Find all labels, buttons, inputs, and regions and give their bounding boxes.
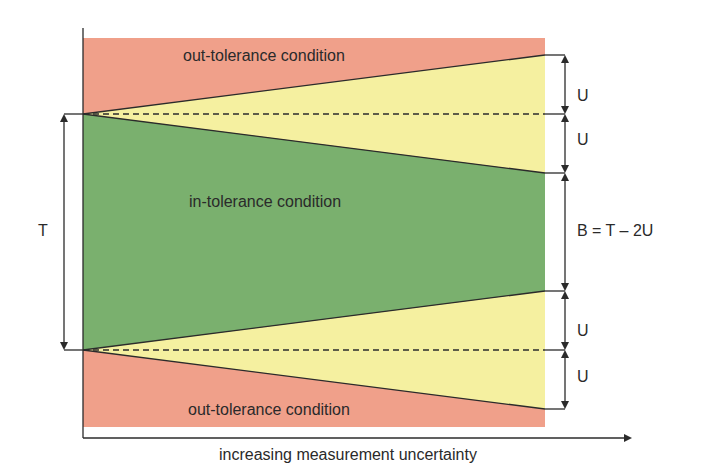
t-label: T [38,222,48,240]
in-tolerance-label: in-tolerance condition [189,193,341,211]
top-out-tolerance-label: out-tolerance condition [183,47,345,65]
u-label-1: U [577,87,589,105]
u-label-3: U [577,322,589,340]
bottom-out-tolerance-label: out-tolerance condition [188,401,350,419]
u-label-2: U [577,131,589,149]
u-label-4: U [577,368,589,386]
b-label: B = T – 2U [577,222,653,240]
x-axis-label: increasing measurement uncertainty [219,446,477,464]
